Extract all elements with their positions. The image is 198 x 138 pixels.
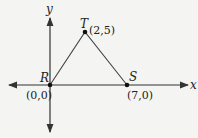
triangle-RTS: [50, 32, 127, 85]
label-T: T: [80, 17, 89, 31]
x-axis-label: x: [190, 78, 197, 92]
coord-S: (7,0): [127, 89, 153, 102]
coord-R: (0,0): [26, 89, 52, 102]
coordinate-diagram: y x T (2,5) R (0,0) S (7,0): [0, 0, 198, 138]
label-S: S: [129, 70, 137, 84]
y-axis-label: y: [45, 2, 53, 16]
coord-T: (2,5): [89, 24, 115, 37]
label-R: R: [39, 71, 49, 85]
